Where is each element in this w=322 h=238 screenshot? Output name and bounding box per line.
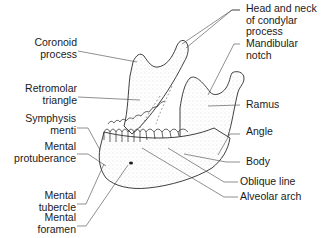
label-mental-tubercle: Mental tubercle bbox=[39, 190, 76, 213]
label-body: Body bbox=[246, 156, 270, 168]
label-symphysis-menti: Symphysis menti bbox=[25, 113, 76, 136]
label-mental-protuberance: Mental protuberance bbox=[14, 141, 76, 164]
label-angle: Angle bbox=[246, 126, 273, 138]
label-alveolar-arch: Alveolar arch bbox=[240, 191, 301, 203]
label-head-neck-condylar: Head and neck of condylar process bbox=[246, 3, 317, 38]
mental-foramen-mark bbox=[129, 162, 133, 165]
label-mental-foramen: Mental foramen bbox=[37, 212, 76, 235]
label-oblique-line: Oblique line bbox=[240, 176, 295, 188]
label-coronoid-process: Coronoid process bbox=[34, 37, 77, 60]
label-ramus: Ramus bbox=[246, 99, 279, 111]
mandible-far-side bbox=[124, 40, 188, 134]
label-retromolar-triangle: Retromolar triangle bbox=[25, 83, 77, 106]
mandible-body bbox=[99, 128, 230, 189]
label-mandibular-notch: Mandibular notch bbox=[246, 38, 298, 61]
